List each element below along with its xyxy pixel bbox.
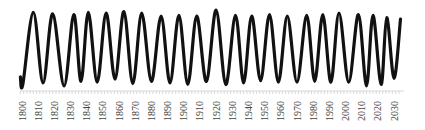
- x-tick-label: 1890: [162, 101, 173, 121]
- series-line: [20, 10, 400, 88]
- x-tick-label: 1880: [146, 101, 157, 121]
- x-axis-tick-labels: 1800181018201830184018501860187018801890…: [17, 101, 400, 121]
- x-tick-label: 1870: [130, 101, 141, 121]
- plot-area: [20, 10, 400, 88]
- x-tick-label: 1980: [308, 101, 319, 121]
- x-tick-label: 1850: [97, 101, 108, 121]
- x-axis: 1800181018201830184018501860187018801890…: [17, 91, 405, 121]
- x-tick-label: 2000: [340, 101, 351, 121]
- x-tick-label: 1830: [65, 101, 76, 121]
- x-tick-label: 1860: [114, 101, 125, 121]
- x-tick-label: 2020: [372, 101, 383, 121]
- x-tick-label: 2030: [389, 101, 400, 121]
- x-tick-label: 1910: [194, 101, 205, 121]
- x-tick-label: 1950: [259, 101, 270, 121]
- x-tick-label: 1800: [17, 101, 28, 121]
- x-tick-label: 1900: [178, 101, 189, 121]
- x-tick-label: 1810: [33, 101, 44, 121]
- line-chart: 1800181018201830184018501860187018801890…: [0, 0, 425, 130]
- x-tick-label: 1940: [243, 101, 254, 121]
- x-tick-label: 1970: [292, 101, 303, 121]
- x-tick-label: 1820: [49, 101, 60, 121]
- x-tick-label: 1990: [324, 101, 335, 121]
- x-tick-label: 1960: [275, 101, 286, 121]
- x-tick-label: 1840: [81, 101, 92, 121]
- x-tick-label: 1930: [227, 101, 238, 121]
- x-tick-label: 1920: [211, 101, 222, 121]
- x-tick-label: 2010: [356, 101, 367, 121]
